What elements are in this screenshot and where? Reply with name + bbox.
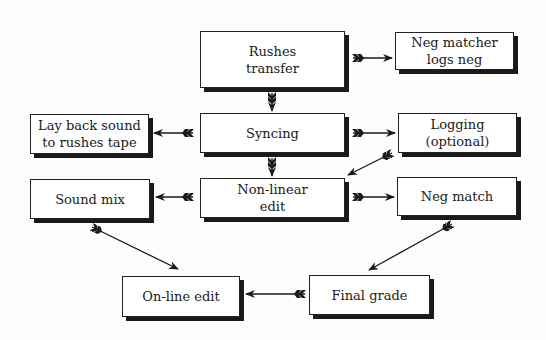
arrow-negmatch-to-finalgrade — [369, 224, 452, 270]
node-rushes-transfer: Rushes transfer — [200, 31, 345, 88]
node-non-linear-edit: Non-linear edit — [200, 178, 345, 218]
node-sound-mix: Sound mix — [30, 179, 150, 219]
arrow-soundmix-to-online — [92, 227, 178, 269]
node-neg-matcher-logs-neg: Neg matcher logs neg — [395, 32, 514, 70]
node-logging-optional: Logging (optional) — [398, 113, 517, 153]
node-online-edit: On-line edit — [122, 276, 240, 317]
node-final-grade: Final grade — [309, 275, 430, 315]
node-lay-back-sound: Lay back sound to rushes tape — [30, 114, 149, 154]
workflow-diagram: Rushes transfer Neg matcher logs neg Syn… — [0, 0, 546, 340]
arrow-logging-to-nonlinear — [348, 153, 392, 175]
node-syncing: Syncing — [200, 113, 345, 153]
node-neg-match: Neg match — [397, 177, 517, 216]
